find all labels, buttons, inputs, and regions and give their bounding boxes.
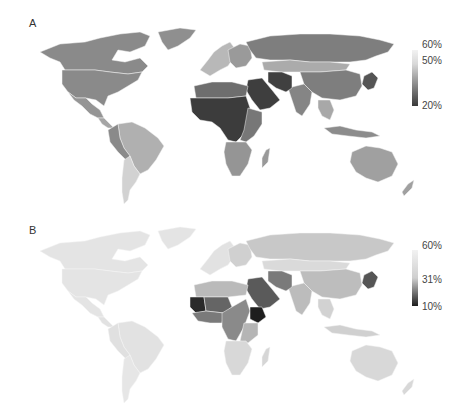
world-map-a [0, 0, 463, 207]
legend-tick-b-60: 60% [422, 241, 442, 251]
region-india [288, 283, 312, 315]
map-panel-a: A [0, 0, 463, 207]
legend-tick-b-31: 31% [422, 275, 442, 285]
region-madagascar [262, 347, 270, 367]
region-japan-korea [362, 271, 378, 289]
region-madagascar [262, 148, 270, 168]
region-australia [350, 146, 398, 182]
region-southern-africa [224, 341, 252, 375]
region-southeast-asia [318, 100, 334, 120]
region-new-zealand [402, 379, 414, 395]
region-iran-afghanistan [268, 271, 292, 291]
region-southeast-asia [318, 299, 334, 319]
legend-tick-a-50: 50% [422, 56, 442, 66]
region-sahel-central-africa [190, 96, 250, 142]
region-greenland [158, 227, 196, 249]
region-japan-korea [362, 72, 378, 90]
map-panel-b: B [0, 207, 463, 415]
legend-tick-a-60: 60% [422, 40, 442, 50]
region-central-america [98, 118, 114, 128]
region-north-africa [194, 281, 248, 297]
region-usa [62, 70, 142, 106]
region-mauritania-mali [190, 297, 206, 313]
region-afghanistan-pakistan [268, 72, 292, 92]
region-central-america [98, 317, 114, 327]
region-russia [246, 233, 394, 261]
legend-tick-b-10: 10% [422, 302, 442, 312]
region-canada [40, 32, 150, 74]
region-new-zealand [402, 180, 414, 196]
region-north-africa [194, 82, 248, 98]
region-west-africa [192, 311, 224, 323]
region-southern-africa [224, 142, 252, 176]
region-usa [62, 269, 142, 305]
region-indonesia [324, 126, 380, 138]
region-canada [40, 231, 150, 273]
region-greenland [158, 28, 196, 50]
colorbar-b [412, 250, 418, 306]
region-australia [350, 345, 398, 381]
region-indonesia [324, 325, 380, 337]
colorbar-a [412, 50, 418, 106]
region-russia [246, 34, 394, 62]
region-ethiopia [250, 307, 266, 323]
legend-tick-a-20: 20% [422, 101, 442, 111]
region-india [288, 84, 312, 116]
world-map-b [0, 207, 463, 415]
